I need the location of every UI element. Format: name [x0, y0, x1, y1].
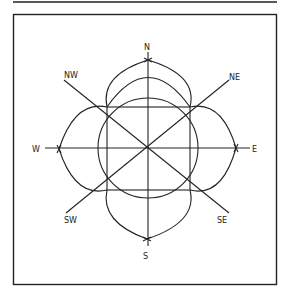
label-north: N	[144, 43, 150, 52]
label-east: E	[252, 145, 257, 154]
east-arc-bottom	[190, 148, 236, 191]
label-southwest: SW	[64, 216, 77, 225]
label-west: W	[32, 145, 40, 154]
west-arc-top	[59, 106, 107, 149]
label-northwest: NW	[64, 71, 78, 80]
label-south: S	[143, 252, 148, 261]
east-arc-top	[190, 106, 236, 148]
compass-diagram: N NE E SE S SW W NW	[0, 0, 288, 294]
south-tick-icon	[143, 237, 151, 241]
label-southeast: SE	[217, 216, 227, 225]
label-northeast: NE	[229, 73, 240, 82]
west-tick-icon	[57, 145, 61, 153]
